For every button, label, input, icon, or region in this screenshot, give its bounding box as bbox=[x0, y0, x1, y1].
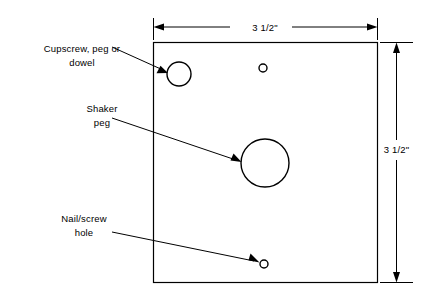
shaker-peg-callout-line-1: Shaker bbox=[86, 103, 117, 114]
height-dimension-label: 3 1/2" bbox=[384, 144, 409, 155]
height-dimension-top-arrow-icon bbox=[393, 43, 400, 54]
width-dimension: 3 1/2" bbox=[154, 18, 378, 40]
width-dimension-right-arrow-icon bbox=[367, 23, 378, 30]
cupscrew-callout: Cupscrew, peg or dowel bbox=[44, 43, 168, 73]
cupscrew-leader-arrow-icon bbox=[157, 66, 169, 73]
height-dimension-bottom-arrow-icon bbox=[393, 272, 400, 283]
cupscrew-callout-line-2: dowel bbox=[69, 57, 95, 68]
nail-screw-callout-line-1: Nail/screw bbox=[61, 213, 106, 224]
shaker-peg-leader-arrow-icon bbox=[231, 154, 242, 163]
drawing-svg: 3 1/2" 3 1/2" bbox=[0, 0, 435, 301]
cupscrew-hole bbox=[167, 62, 191, 86]
cupscrew-callout-line-1: Cupscrew, peg or bbox=[44, 43, 120, 54]
technical-drawing-canvas: 3 1/2" 3 1/2" bbox=[0, 0, 435, 301]
width-dimension-label: 3 1/2" bbox=[252, 22, 277, 33]
shaker-peg-hole bbox=[241, 139, 289, 187]
nail-screw-callout: Nail/screw hole bbox=[61, 213, 259, 263]
nail-screw-leader-line bbox=[112, 232, 254, 261]
shaker-peg-callout: Shaker peg bbox=[86, 103, 241, 162]
shaker-peg-callout-line-2: peg bbox=[94, 117, 110, 128]
shaker-peg-leader-line bbox=[112, 118, 236, 160]
nail-screw-callout-line-2: hole bbox=[75, 227, 94, 238]
nail-screw-hole bbox=[260, 260, 268, 268]
height-dimension: 3 1/2" bbox=[380, 43, 413, 283]
nail-screw-leader-arrow-icon bbox=[249, 254, 260, 263]
width-dimension-left-arrow-icon bbox=[154, 23, 165, 30]
top-small-hole bbox=[259, 64, 267, 72]
